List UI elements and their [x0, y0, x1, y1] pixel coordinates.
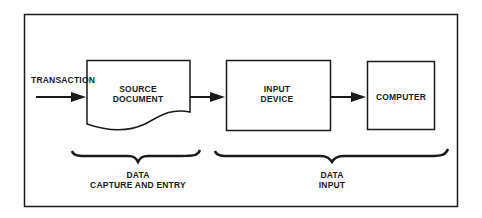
brace-data-input — [215, 149, 448, 162]
transaction-label: TRANSACTION — [31, 75, 95, 85]
source-document-line1: SOURCE — [119, 84, 157, 94]
group-input-line1: DATA — [320, 170, 343, 180]
source-document-line2: DOCUMENT — [113, 94, 164, 104]
data-flow-diagram: TRANSACTION SOURCE DOCUMENT INPUT DEVICE… — [0, 0, 482, 218]
transaction-arrow — [36, 92, 86, 102]
computer-label: COMPUTER — [376, 92, 426, 102]
input-device-line1: INPUT — [264, 84, 291, 94]
group-capture-line1: DATA — [126, 170, 149, 180]
input-device-line2: DEVICE — [261, 94, 294, 104]
group-capture-line2: CAPTURE AND ENTRY — [90, 180, 186, 190]
arrow-document-to-input — [190, 92, 225, 102]
arrow-input-to-computer — [330, 92, 366, 102]
brace-data-capture — [72, 150, 200, 162]
group-input-line2: INPUT — [319, 180, 346, 190]
outer-frame — [25, 15, 458, 207]
